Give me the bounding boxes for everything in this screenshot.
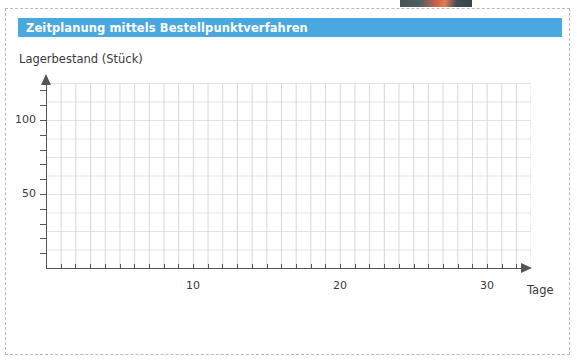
y-axis-caption: Lagerbestand (Stück) <box>19 52 143 66</box>
page-title: Zeitplanung mittels Bestellpunktverfahre… <box>18 21 308 35</box>
page-bleed-artifact <box>400 0 472 7</box>
card-title-bar: Zeitplanung mittels Bestellpunktverfahre… <box>18 18 562 37</box>
